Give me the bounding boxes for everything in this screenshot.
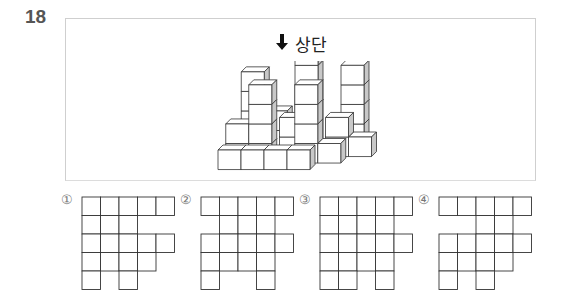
question-number: 18 — [25, 6, 46, 28]
figure-box: 상단 — [65, 18, 536, 181]
direction-text: 상단 — [295, 35, 327, 55]
option-mark: ① — [61, 192, 73, 207]
grid-view — [81, 196, 177, 292]
arrow-down-icon — [275, 34, 289, 54]
option-mark: ③ — [299, 192, 311, 207]
direction-label: 상단 — [66, 31, 535, 56]
grid-view — [200, 196, 296, 292]
option-mark: ② — [180, 192, 192, 207]
grid-view — [319, 196, 415, 292]
cube-stack-figure — [206, 61, 406, 179]
grid-view — [438, 196, 534, 292]
option-mark: ④ — [418, 192, 430, 207]
